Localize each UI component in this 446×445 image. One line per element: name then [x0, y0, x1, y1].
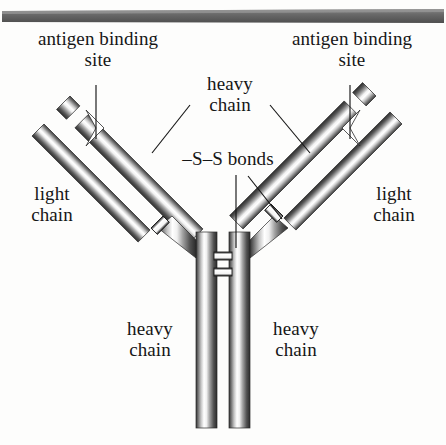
label-heavy-chain-bottom-left: heavy chain: [108, 318, 192, 361]
label-light-chain-right: light chain: [352, 183, 436, 226]
disulfide-bridge-hinge-upper: [214, 252, 232, 260]
label-antigen-binding-site-left: antigen binding site: [8, 28, 188, 71]
antibody-structure-figure: antigen binding site antigen binding sit…: [0, 0, 446, 445]
label-ss-bonds: –S–S bonds: [148, 148, 308, 169]
label-antigen-binding-site-right: antigen binding site: [262, 28, 442, 71]
hinge-elbow-right: [250, 216, 288, 258]
disulfide-bridge-arm-right: [265, 204, 283, 222]
heavy-chain-stem-right: [229, 232, 250, 428]
heavy-chain-stem-left: [196, 232, 217, 428]
top-rule-bar: [2, 9, 444, 23]
disulfide-bridge-hinge-lower: [214, 268, 232, 276]
leader-line-heavy-chain-left: [152, 105, 190, 153]
label-heavy-chain-top: heavy chain: [188, 73, 272, 116]
leader-line-heavy-chain-right: [270, 105, 310, 153]
label-light-chain-left: light chain: [10, 183, 94, 226]
label-heavy-chain-bottom-right: heavy chain: [254, 318, 338, 361]
